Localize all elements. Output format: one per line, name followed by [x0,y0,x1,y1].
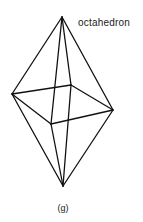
figure-caption: (g) [0,203,126,213]
edge-top-back [62,17,71,85]
edge-bottom-left [12,94,63,186]
octahedron-edges [12,17,113,186]
edge-bottom-front [51,124,63,186]
edge-top-front [51,17,62,124]
edge-top-left [12,17,62,94]
edge-bottom-back [63,85,71,186]
edge-right-front [51,110,113,124]
octahedron-wireframe [0,0,143,222]
edge-left-back [12,85,71,94]
shape-label: octahedron [78,17,130,28]
edge-bottom-right [63,110,113,186]
octahedron-figure: octahedron (g) [0,0,143,222]
edge-front-left [12,94,51,124]
